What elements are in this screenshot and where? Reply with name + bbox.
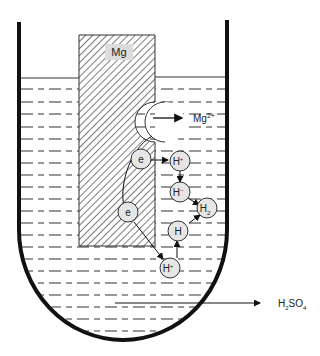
svg-text:e: e bbox=[125, 207, 131, 218]
h2-molecule: H2 bbox=[197, 198, 217, 218]
h-minus-ion: H– bbox=[170, 182, 190, 202]
h-plus-ion-2: H+ bbox=[160, 258, 180, 278]
h-atom: H bbox=[168, 221, 188, 241]
electron-1: e bbox=[131, 149, 151, 169]
corrosion-pit bbox=[155, 102, 185, 142]
h-plus-ion-1: H+ bbox=[170, 151, 190, 171]
electrolysis-diagram: Mg Mg2+ e e H+ H– H2 H bbox=[0, 0, 320, 356]
electron-2: e bbox=[118, 202, 138, 222]
electrode-label: Mg bbox=[111, 46, 126, 58]
mg-ion-label: Mg2+ bbox=[193, 112, 215, 124]
solution-label: H2SO4 bbox=[278, 298, 307, 311]
mg-electrode: Mg bbox=[79, 35, 155, 246]
svg-text:H: H bbox=[174, 226, 181, 237]
svg-text:e: e bbox=[138, 154, 144, 165]
